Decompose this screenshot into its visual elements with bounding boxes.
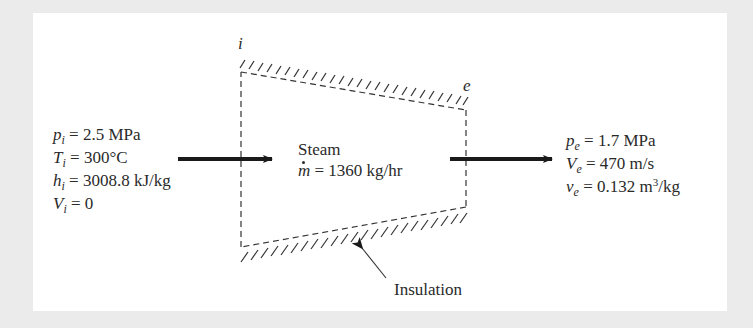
insulation-leader-arrow: [362, 248, 386, 278]
inlet-pressure: pi = 2.5 MPa: [53, 124, 171, 147]
exit-velocity: Ve = 470 m/s: [566, 153, 680, 176]
mass-flow-rate: m = 1360 kg/hr: [298, 160, 403, 181]
inlet-temperature: Ti = 300°C: [53, 147, 171, 170]
inlet-velocity: Vi = 0: [53, 193, 171, 216]
exit-conditions: pe = 1.7 MPa Ve = 470 m/s ve = 0.132 m3/…: [566, 130, 680, 199]
inlet-enthalpy: hi = 3008.8 kJ/kg: [53, 170, 171, 193]
insulation-label: Insulation: [394, 279, 462, 300]
exit-pressure: pe = 1.7 MPa: [566, 130, 680, 153]
inlet-conditions: pi = 2.5 MPa Ti = 300°C hi = 3008.8 kJ/k…: [53, 124, 171, 216]
exit-state-label: e: [463, 76, 471, 96]
control-volume-label: Steam m = 1360 kg/hr: [298, 139, 403, 181]
inlet-state-label: i: [238, 34, 243, 54]
mass-flow-symbol: m: [298, 160, 310, 181]
exit-specific-volume: ve = 0.132 m3/kg: [566, 176, 680, 199]
fluid-name: Steam: [298, 139, 403, 160]
top-insulation-hatch: [240, 60, 468, 105]
bottom-insulation-hatch: [241, 213, 467, 262]
